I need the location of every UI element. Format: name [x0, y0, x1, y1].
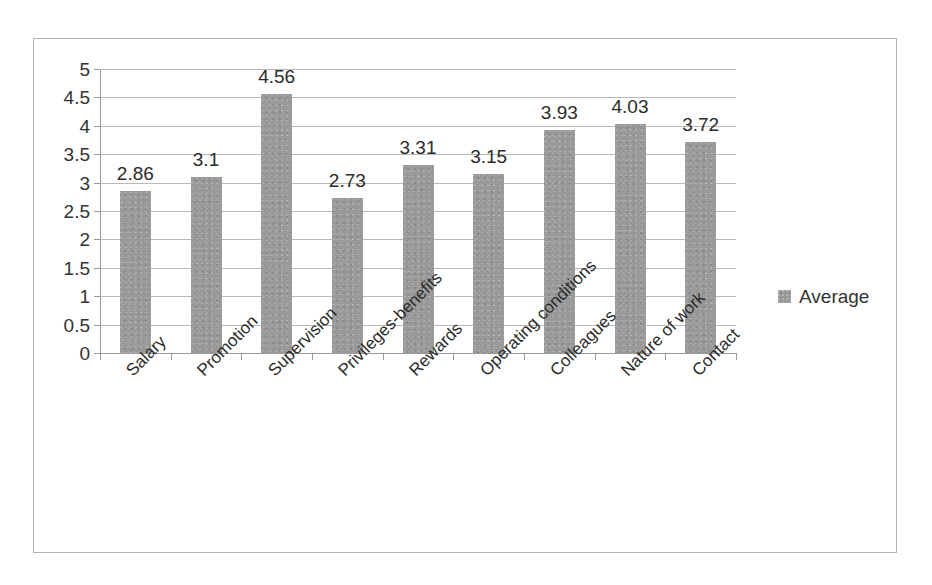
- y-axis-tick-mark: [94, 211, 100, 212]
- y-axis-tick-mark: [94, 97, 100, 98]
- bar-value-label: 3.31: [378, 138, 458, 157]
- chart-legend: Average: [778, 287, 869, 306]
- bar[interactable]: [332, 198, 363, 353]
- y-axis-tick-mark: [94, 126, 100, 127]
- bar-value-label: 4.03: [590, 97, 670, 116]
- bar-value-label: 3.93: [519, 103, 599, 122]
- bar[interactable]: [191, 177, 222, 353]
- bar[interactable]: [261, 94, 292, 353]
- y-axis-tick-label: 1.5: [38, 259, 90, 278]
- chart-frame: 54.543.532.521.510.50 SalaryPromotionSup…: [33, 38, 897, 553]
- x-axis-tick-mark: [665, 353, 666, 360]
- y-axis-tick-labels: 54.543.532.521.510.50: [34, 39, 90, 552]
- y-axis-tick-mark: [94, 325, 100, 326]
- y-axis-tick-mark: [94, 296, 100, 297]
- bar-value-label: 2.73: [307, 171, 387, 190]
- gridline: [100, 69, 736, 70]
- bar[interactable]: [120, 191, 151, 353]
- bar-value-label: 3.1: [166, 150, 246, 169]
- y-axis-tick-mark: [94, 268, 100, 269]
- x-axis-tick-mark: [453, 353, 454, 360]
- y-axis-tick-label: 2: [38, 230, 90, 249]
- bar[interactable]: [473, 174, 504, 353]
- bar-value-label: 3.15: [449, 147, 529, 166]
- x-axis-tick-mark: [100, 353, 101, 360]
- y-axis-tick-label: 5: [38, 60, 90, 79]
- bar-value-label: 2.86: [95, 164, 175, 183]
- y-axis-tick-label: 3.5: [38, 145, 90, 164]
- legend-label: Average: [799, 287, 869, 306]
- y-axis-tick-mark: [94, 183, 100, 184]
- x-axis-tick-mark: [241, 353, 242, 360]
- bar-value-label: 4.56: [237, 67, 317, 86]
- y-axis-tick-label: 3: [38, 174, 90, 193]
- y-axis-tick-label: 2.5: [38, 202, 90, 221]
- x-axis-tick-mark: [312, 353, 313, 360]
- y-axis-tick-label: 4.5: [38, 88, 90, 107]
- y-axis-tick-mark: [94, 353, 100, 354]
- x-axis-tick-mark: [595, 353, 596, 360]
- bar[interactable]: [685, 142, 716, 353]
- y-axis-tick-mark: [94, 239, 100, 240]
- y-axis-tick-mark: [94, 154, 100, 155]
- legend-swatch-icon: [778, 290, 791, 303]
- y-axis-tick-mark: [94, 69, 100, 70]
- y-axis-tick-label: 1: [38, 287, 90, 306]
- y-axis-tick-label: 0.5: [38, 316, 90, 335]
- x-axis-tick-mark: [171, 353, 172, 360]
- x-axis-tick-mark: [736, 353, 737, 360]
- y-axis-tick-label: 0: [38, 344, 90, 363]
- x-axis-tick-mark: [524, 353, 525, 360]
- x-axis-tick-mark: [383, 353, 384, 360]
- bar-value-label: 3.72: [661, 115, 741, 134]
- bar[interactable]: [403, 165, 434, 353]
- y-axis-tick-label: 4: [38, 117, 90, 136]
